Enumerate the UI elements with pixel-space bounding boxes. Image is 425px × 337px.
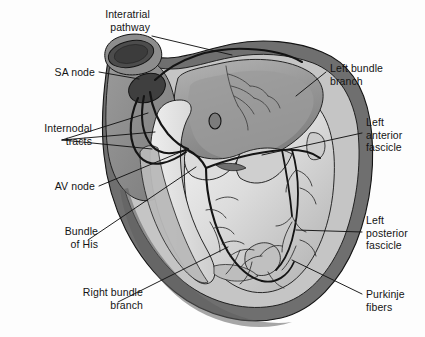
label-purkinje-fibers: Purkinje fibers	[366, 288, 425, 313]
heart-conduction-diagram: Interatrial pathway SA node Internodal t…	[0, 0, 425, 337]
label-right-bundle-branch: Right bundle branch	[35, 286, 143, 311]
label-left-bundle-branch: Left bundle branch	[330, 62, 425, 87]
label-bundle-of-his: Bundle of His	[0, 225, 98, 250]
label-av-node: AV node	[0, 180, 95, 193]
leader-left-bundle-branch	[296, 72, 326, 96]
label-internodal-tracts: Internodal tracts	[0, 122, 92, 147]
leader-bundle-of-his	[88, 167, 196, 240]
label-sa-node: SA node	[0, 66, 95, 79]
leader-purkinje-fibers	[292, 260, 362, 294]
label-left-anterior-fascicle: Left anterior fascicle	[366, 116, 425, 154]
leader-av-node	[99, 151, 183, 186]
label-interatrial-pathway: Interatrial pathway	[40, 8, 150, 33]
leader-interatrial-pathway	[152, 36, 232, 55]
leader-sa-node	[99, 72, 139, 79]
label-left-posterior-fascicle: Left posterior fascicle	[366, 214, 425, 252]
leader-left-posterior-fascicle	[296, 230, 362, 232]
leader-left-anterior-fascicle	[262, 133, 362, 155]
